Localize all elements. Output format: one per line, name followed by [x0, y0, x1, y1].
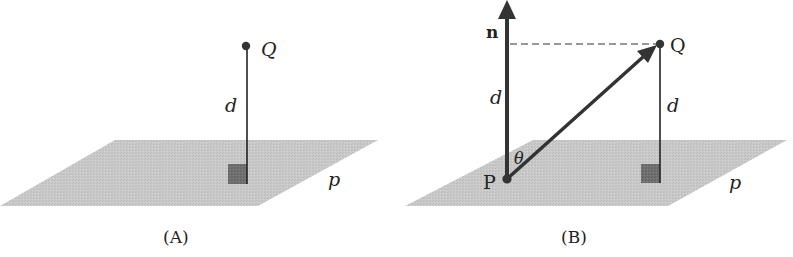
label-theta: θ	[514, 149, 524, 168]
panel-a: Q d p (A)	[0, 38, 378, 247]
plane-a	[0, 140, 378, 206]
label-p-point: P	[483, 171, 496, 193]
label-q-b: Q	[670, 34, 686, 56]
label-n: n	[486, 22, 498, 42]
right-angle-marker-a	[228, 164, 247, 184]
point-q-b	[656, 40, 664, 48]
distance-point-to-plane-figure: Q d p (A) n Q d d θ P	[0, 0, 793, 257]
normal-arrowhead-icon	[498, 0, 516, 19]
right-angle-marker-b	[641, 164, 660, 183]
caption-b: (B)	[561, 227, 587, 247]
label-d-left: d	[490, 86, 502, 108]
point-q-a	[242, 42, 250, 50]
label-plane-a: p	[328, 168, 340, 190]
panel-b: n Q d d θ P p (B)	[405, 0, 787, 247]
label-plane-b: p	[729, 171, 741, 193]
caption-a: (A)	[163, 227, 189, 247]
label-d-a: d	[225, 94, 237, 116]
label-d-right: d	[667, 94, 679, 116]
point-p	[502, 174, 511, 183]
label-q-a: Q	[261, 38, 277, 60]
